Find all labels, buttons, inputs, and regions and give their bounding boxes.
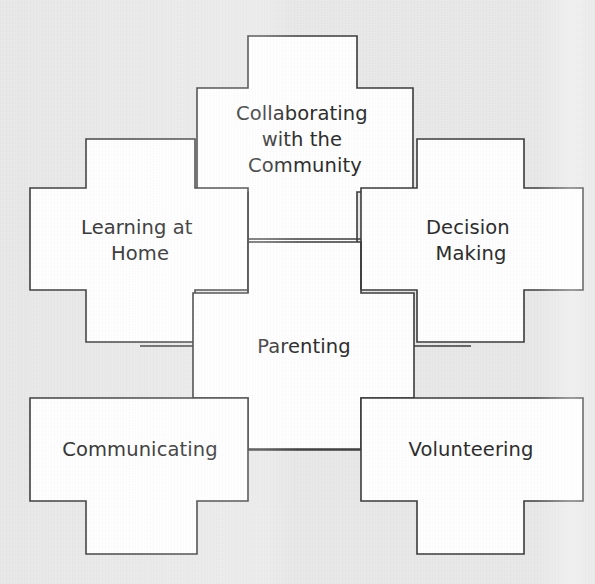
puzzle-diagram: Collaborating with the Community Learnin… — [0, 0, 595, 584]
piece-label-communicating: Communicating — [62, 438, 217, 461]
piece-label-line: Making — [436, 242, 507, 265]
piece-label-line: Communicating — [62, 438, 217, 461]
piece-outline-volunteering — [361, 398, 583, 554]
piece-label-line: Parenting — [257, 335, 350, 358]
piece-label-line: Decision — [426, 216, 510, 239]
piece-label-line: Collaborating — [236, 102, 368, 125]
piece-outline-communicating — [30, 398, 248, 554]
puzzle-piece-communicating[interactable]: Communicating — [30, 398, 248, 554]
piece-label-line: Home — [111, 242, 169, 265]
piece-label-line: Volunteering — [409, 438, 534, 461]
piece-label-line: Community — [248, 154, 362, 177]
diagram-canvas: Collaborating with the Community Learnin… — [0, 0, 595, 584]
piece-label-volunteering: Volunteering — [409, 438, 534, 461]
piece-label-line: with the — [262, 128, 342, 151]
piece-label-line: Learning at — [81, 216, 193, 239]
puzzle-piece-volunteering[interactable]: Volunteering — [361, 398, 583, 554]
piece-label-parenting: Parenting — [257, 335, 350, 358]
